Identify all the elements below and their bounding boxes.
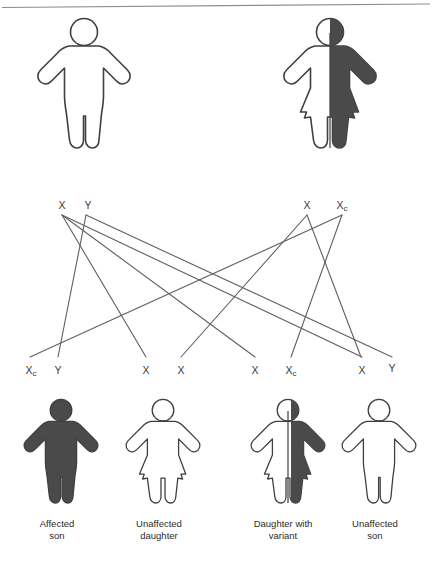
mother-allele-0: X: [303, 199, 310, 211]
offspring-captions: Affected son Unaffected daughter Daughte…: [40, 518, 398, 541]
mother-allele-labels: X Xc: [303, 199, 347, 213]
offspring-allele-labels: Xc Y X X X Xc X Y: [25, 362, 395, 378]
line-fatherY-to-child1: [58, 215, 86, 357]
caption-child4-line1: Unaffected: [352, 518, 398, 529]
child2-allele-1: X: [177, 364, 184, 376]
caption-child1-line1: Affected: [40, 518, 75, 529]
line-fatherX-to-child3: [62, 215, 255, 357]
mother-allele-1: Xc: [336, 199, 347, 213]
child4-allele-0: X: [358, 364, 365, 376]
father-allele-0: X: [58, 199, 65, 211]
father-allele-1: Y: [84, 199, 91, 211]
child1-allele-1: Y: [54, 364, 61, 376]
caption-child3-line2: variant: [269, 530, 298, 541]
parent-mother-figure: [284, 19, 376, 149]
caption-child3-line1: Daughter with: [254, 518, 313, 529]
parent-father-figure: [38, 19, 130, 149]
child1-allele-0: Xc: [25, 364, 36, 378]
line-motherX-to-child2: [181, 215, 307, 357]
child4-allele-1: Y: [388, 362, 395, 374]
father-allele-labels: X Y: [58, 199, 91, 211]
caption-child1-line2: son: [49, 530, 64, 541]
caption-child2-line1: Unaffected: [136, 518, 182, 529]
diagram-canvas: X Y X Xc Xc Y: [0, 0, 432, 573]
caption-child4-line2: son: [367, 530, 382, 541]
offspring-child4-figure: [342, 399, 416, 503]
top-divider-rule: [2, 4, 430, 8]
inheritance-diagram: X Y X Xc Xc Y: [0, 0, 432, 573]
segregation-lines: [30, 215, 392, 357]
line-fatherY-to-child4: [86, 215, 392, 357]
line-fatherX-to-child2: [62, 215, 146, 357]
caption-child2-line2: daughter: [140, 530, 178, 541]
offspring-child2-figure: [126, 399, 200, 503]
offspring-child3-figure: [251, 399, 325, 503]
child3-allele-0: X: [251, 364, 258, 376]
child3-allele-1: Xc: [285, 364, 296, 378]
line-motherXc-to-child1: [30, 215, 342, 357]
child2-allele-0: X: [142, 364, 149, 376]
offspring-child1-figure: [24, 399, 98, 503]
